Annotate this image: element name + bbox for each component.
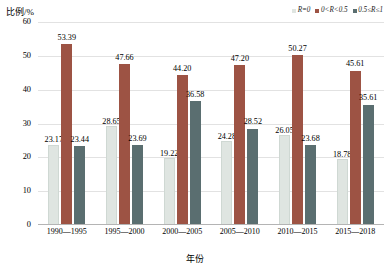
bar-slot: 19.22	[164, 22, 175, 225]
y-axis-title: 比例/%	[6, 8, 34, 17]
bar[interactable]	[279, 135, 290, 225]
bar-value-label: 19.22	[160, 150, 178, 158]
bar-value-label: 47.66	[115, 54, 133, 62]
bar-slot: 47.66	[119, 22, 130, 225]
bar-slot: 53.39	[61, 22, 72, 225]
y-tick-label: 40	[23, 85, 31, 93]
bar-value-label: 50.27	[288, 45, 306, 53]
legend-entry-r-equals-0: R=0	[292, 7, 310, 14]
bar[interactable]	[221, 141, 232, 225]
bar-slot: 24.28	[221, 22, 232, 225]
bar-value-label: 53.39	[58, 34, 76, 42]
bar-slot: 35.61	[363, 22, 374, 225]
bar[interactable]	[190, 101, 201, 225]
bar-slot: 23.17	[48, 22, 59, 225]
bar-value-label: 45.61	[346, 60, 364, 68]
x-tick-label: 2000—2005	[153, 228, 211, 236]
x-tick-label: 1990—1995	[38, 228, 96, 236]
bar[interactable]	[363, 105, 374, 225]
bar-value-label: 36.58	[186, 91, 204, 99]
bar-slot: 18.78	[337, 22, 348, 225]
x-tick-label: 1995—2000	[96, 228, 154, 236]
chart-legend: R=0 0<R<0.5 0.5≤R≤1	[292, 7, 383, 14]
x-axis-ticks: 1990—19951995—20002000—20052005—20102010…	[38, 228, 384, 236]
legend-swatch-series-2	[315, 9, 319, 13]
bar-chart: R=0 0<R<0.5 0.5≤R≤1 比例/% 0102030405060 2…	[0, 0, 389, 270]
bar[interactable]	[132, 145, 143, 225]
bar-group: 23.1753.3923.44	[38, 22, 96, 225]
bar-slot: 36.58	[190, 22, 201, 225]
bar[interactable]	[119, 64, 130, 225]
bar-slot: 28.52	[247, 22, 258, 225]
bar-value-label: 28.65	[102, 118, 120, 126]
y-axis-ticks: 0102030405060	[0, 22, 34, 225]
bar-group: 19.2244.2036.58	[153, 22, 211, 225]
legend-swatch-series-3	[353, 9, 357, 13]
bar-value-label: 23.68	[301, 135, 319, 143]
bar-value-label: 23.69	[128, 135, 146, 143]
legend-swatch-series-1	[292, 9, 296, 13]
bar[interactable]	[74, 146, 85, 225]
bar[interactable]	[234, 65, 245, 225]
bar-value-label: 24.28	[218, 133, 236, 141]
bar-slot: 23.68	[305, 22, 316, 225]
bar[interactable]	[305, 145, 316, 225]
bar-value-label: 23.44	[71, 136, 89, 144]
bar-value-label: 28.52	[244, 118, 262, 126]
legend-label-series-3: 0.5≤R≤1	[358, 7, 383, 14]
bar-slot: 23.69	[132, 22, 143, 225]
x-axis-line	[38, 224, 384, 225]
bar-value-label: 44.20	[173, 65, 191, 73]
bar-group: 18.7845.6135.61	[326, 22, 384, 225]
bar-group: 26.0550.2723.68	[269, 22, 327, 225]
bar-value-label: 35.61	[359, 94, 377, 102]
bar-slot: 44.20	[177, 22, 188, 225]
y-tick-label: 20	[23, 153, 31, 161]
x-tick-label: 2005—2010	[211, 228, 269, 236]
y-tick-label: 10	[23, 187, 31, 195]
y-tick-label: 30	[23, 119, 31, 127]
legend-label-series-1: R=0	[298, 7, 311, 14]
y-tick-label: 0	[27, 221, 31, 229]
bar[interactable]	[106, 126, 117, 225]
bar-slot: 45.61	[350, 22, 361, 225]
bar-value-label: 23.17	[45, 136, 63, 144]
bar[interactable]	[247, 129, 258, 225]
y-tick-label: 60	[23, 18, 31, 26]
bar[interactable]	[48, 145, 59, 225]
legend-entry-r-between-0-and-half: 0<R<0.5	[315, 7, 347, 14]
x-tick-label: 2015—2018	[326, 228, 384, 236]
y-tick-label: 50	[23, 52, 31, 60]
x-tick-label: 2010—2015	[269, 228, 327, 236]
legend-label-series-2: 0<R<0.5	[321, 7, 348, 14]
bar-slot: 23.44	[74, 22, 85, 225]
bar[interactable]	[337, 159, 348, 225]
bar[interactable]	[164, 158, 175, 225]
bar-group: 24.2847.2028.52	[211, 22, 269, 225]
plot-area: 23.1753.3923.4428.6547.6623.6919.2244.20…	[38, 22, 384, 225]
bar-slot: 50.27	[292, 22, 303, 225]
x-axis-title: 年份	[0, 255, 389, 264]
bar-group: 28.6547.6623.69	[96, 22, 154, 225]
bar-value-label: 47.20	[231, 55, 249, 63]
bar-groups: 23.1753.3923.4428.6547.6623.6919.2244.20…	[38, 22, 384, 225]
bar-value-label: 18.78	[333, 151, 351, 159]
bar-value-label: 26.05	[275, 127, 293, 135]
legend-entry-r-half-to-one: 0.5≤R≤1	[353, 7, 383, 14]
